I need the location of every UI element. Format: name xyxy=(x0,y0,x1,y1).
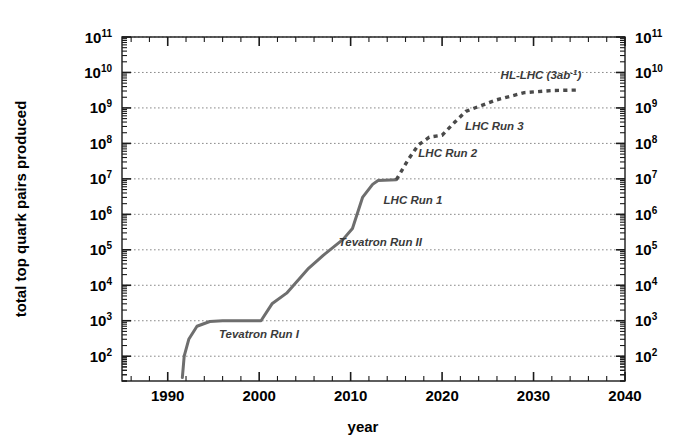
annotation-hl-lhc: HL-LHC (3ab-1) xyxy=(501,68,582,81)
annotation-tevatron-run-2: Tevatron Run II xyxy=(339,236,423,248)
x-axis-title: year xyxy=(348,418,379,435)
annotation-tevatron-run-1: Tevatron Run I xyxy=(219,328,300,340)
x-tick-label: 2010 xyxy=(334,387,367,404)
x-tick-label: 2000 xyxy=(242,387,275,404)
annotation-lhc-run-1: LHC Run 1 xyxy=(384,194,443,206)
chart-figure: 10210310410510610710810910101011 1021031… xyxy=(0,0,692,447)
x-tick-label: 1990 xyxy=(151,387,184,404)
top-quark-pairs-log-chart: 10210310410510610710810910101011 1021031… xyxy=(0,0,692,447)
x-tick-label: 2040 xyxy=(608,387,641,404)
annotation-lhc-run-2: LHC Run 2 xyxy=(418,147,477,159)
x-tick-label: 2020 xyxy=(425,387,458,404)
x-tick-label: 2030 xyxy=(517,387,550,404)
annotation-lhc-run-3: LHC Run 3 xyxy=(465,120,524,132)
y-axis-title: total top quark pairs produced xyxy=(12,101,29,318)
